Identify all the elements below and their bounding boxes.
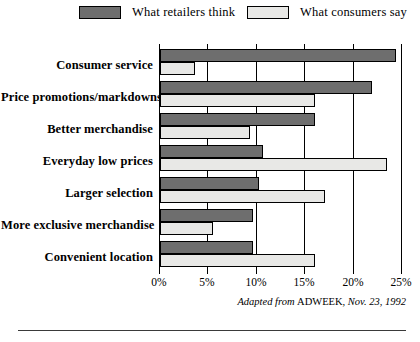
bar-retailers	[160, 113, 315, 126]
bar-row	[160, 158, 402, 171]
x-axis-tick	[207, 268, 208, 274]
bar-row	[160, 209, 402, 222]
x-axis-tick-label: 20%	[342, 276, 363, 288]
bar-consumers	[160, 222, 213, 235]
source-attribution: Adapted from ADWEEK, Nov. 23, 1992	[237, 296, 406, 307]
attribution-prefix: Adapted from	[237, 296, 297, 307]
legend-label-retailers: What retailers think	[132, 6, 235, 19]
bar-row	[160, 190, 402, 203]
bar-retailers	[160, 241, 253, 254]
plot-area: 0%5%10%15%20%25%	[159, 44, 402, 268]
bar-row	[160, 62, 402, 75]
legend-item-consumers: What consumers say	[247, 6, 407, 19]
attribution-suffix: , Nov. 23, 1992	[343, 296, 406, 307]
chart-legend: What retailers think What consumers say	[0, 6, 420, 28]
bar-retailers	[160, 209, 253, 222]
bar-consumers	[160, 62, 195, 75]
category-axis: Consumer servicePrice promotions/markdow…	[0, 44, 153, 268]
bar-row	[160, 241, 402, 254]
bar-retailers	[160, 145, 263, 158]
x-axis-tick-label: 10%	[245, 276, 266, 288]
legend-swatch-retailers	[79, 6, 121, 19]
bar-consumers	[160, 190, 325, 203]
x-axis-tick	[401, 268, 402, 274]
bar-row	[160, 177, 402, 190]
bar-consumers	[160, 158, 387, 171]
category-label: Everyday low prices	[1, 154, 153, 169]
bar-row	[160, 49, 402, 62]
legend-label-consumers: What consumers say	[300, 6, 407, 19]
attribution-source: ADWEEK	[297, 296, 343, 307]
category-label: Consumer service	[1, 58, 153, 73]
bar-retailers	[160, 81, 372, 94]
category-label: More exclusive merchandise	[1, 218, 153, 233]
bar-consumers	[160, 126, 250, 139]
bar-row	[160, 254, 402, 267]
bar-retailers	[160, 49, 396, 62]
bar-row	[160, 222, 402, 235]
x-axis-tick	[256, 268, 257, 274]
bar-row	[160, 145, 402, 158]
x-axis-tick	[304, 268, 305, 274]
bar-row	[160, 126, 402, 139]
legend-item-retailers: What retailers think	[79, 6, 235, 19]
x-axis-tick	[159, 268, 160, 274]
bar-row	[160, 81, 402, 94]
legend-swatch-consumers	[247, 6, 289, 19]
category-label: Larger selection	[1, 186, 153, 201]
bar-consumers	[160, 254, 315, 267]
bar-consumers	[160, 94, 315, 107]
x-axis-tick	[353, 268, 354, 274]
x-axis-tick-label: 0%	[151, 276, 166, 288]
bar-row	[160, 113, 402, 126]
x-axis-tick-label: 5%	[199, 276, 214, 288]
bar-row	[160, 94, 402, 107]
x-axis-tick-label: 25%	[390, 276, 411, 288]
category-label: Price promotions/markdowns	[1, 90, 153, 105]
footer-divider	[18, 330, 406, 331]
chart-figure: What retailers think What consumers say …	[0, 0, 420, 342]
category-label: Convenient location	[1, 250, 153, 265]
bar-retailers	[160, 177, 259, 190]
category-label: Better merchandise	[1, 122, 153, 137]
x-axis-tick-label: 15%	[293, 276, 314, 288]
